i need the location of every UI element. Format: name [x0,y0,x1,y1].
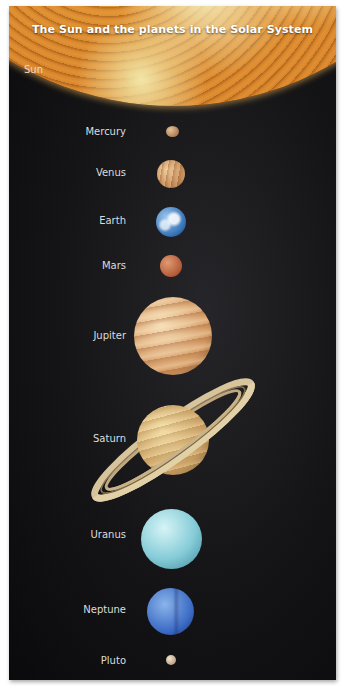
sun-image [9,6,336,106]
jupiter-image [134,297,212,375]
poster-title: The Sun and the planets in the Solar Sys… [9,23,336,36]
planet-label-mercury: Mercury [85,126,126,137]
planet-label-earth: Earth [99,215,126,226]
planet-label-mars: Mars [102,260,126,271]
planet-label-uranus: Uranus [91,529,126,540]
planet-label-venus: Venus [96,167,126,178]
mercury-image [166,126,179,137]
planet-label-neptune: Neptune [83,604,126,615]
neptune-image [147,588,194,635]
planet-label-saturn: Saturn [93,433,126,444]
solar-system-poster: The Sun and the planets in the Solar Sys… [9,6,336,680]
mars-image [160,255,182,277]
venus-image [157,160,185,188]
earth-image [156,207,186,237]
uranus-image [141,509,202,569]
sun-label: Sun [24,64,43,75]
planet-label-jupiter: Jupiter [93,330,126,341]
pluto-image [166,655,176,665]
planet-label-pluto: Pluto [101,655,126,666]
saturn-image [137,405,209,475]
